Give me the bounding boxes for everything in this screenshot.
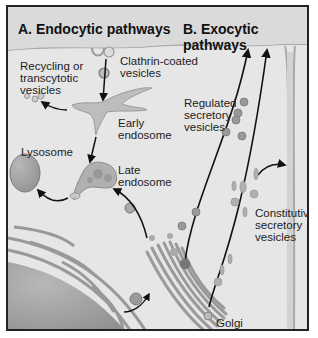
label-regulated-vesicles: Regulatedsecretoryvesicles [184, 97, 236, 133]
label-lysosome: Lysosome [21, 146, 73, 158]
label-late-endosome: Lateendosome [118, 164, 172, 188]
lysosome [10, 154, 40, 192]
title-endocytic: A. Endocytic pathways [18, 21, 170, 37]
title-exocytic: B. Exocytic pathways [183, 21, 307, 53]
label-golgi: Golgi [216, 317, 243, 329]
diagram-panel: A. Endocytic pathways B. Exocytic pathwa… [6, 5, 309, 331]
label-recycling-vesicles: Recycling ortranscytoticvesicles [20, 60, 83, 96]
label-constitutive-vesicles: Constitutivesecretoryvesicles [255, 207, 309, 243]
label-early-endosome: Earlyendosome [118, 117, 172, 141]
label-clathrin-vesicles: Clathrin-coatedvesicles [120, 55, 198, 79]
